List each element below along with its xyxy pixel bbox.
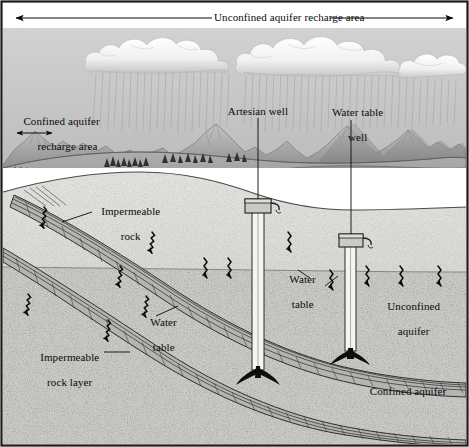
label-water-table-center: Water table	[272, 260, 322, 323]
label-impermeable-rock: Impermeable rock	[86, 192, 164, 255]
label-water-table-well: Water table well	[316, 93, 388, 156]
label-impermeable-rock-layer-line2: rock layer	[47, 376, 92, 388]
label-water-table-left-line1: Water	[150, 316, 177, 328]
label-impermeable-rock-line2: rock	[121, 230, 141, 242]
label-confined-recharge-area: Confined aquifer recharge area	[12, 102, 108, 165]
label-unconfined-aquifer-line1: Unconfined	[387, 300, 440, 312]
label-unconfined-aquifer: Unconfined aquifer	[372, 287, 444, 350]
label-water-table-left-line2: table	[153, 341, 175, 353]
label-water-table-center-line1: Water	[289, 273, 316, 285]
label-artesian-well: Artesian well	[215, 105, 301, 118]
label-impermeable-rock-layer: Impermeable rock layer	[22, 338, 106, 401]
label-water-table-well-line1: Water table	[332, 106, 383, 118]
label-impermeable-rock-layer-line1: Impermeable	[40, 351, 99, 363]
label-impermeable-rock-line1: Impermeable	[101, 205, 160, 217]
label-unconfined-aquifer-line2: aquifer	[398, 325, 430, 337]
label-confined-aquifer: Confined aquifer	[362, 385, 454, 398]
label-confined-recharge-line1: Confined aquifer	[23, 115, 99, 127]
label-confined-recharge-line2: recharge area	[23, 140, 97, 153]
label-water-table-well-line2: well	[348, 131, 367, 143]
label-water-table-center-line2: table	[292, 298, 314, 310]
label-unconfined-recharge-area: Unconfined aquifer recharge area	[214, 11, 332, 24]
aquifer-diagram: Unconfined aquifer recharge area Confine…	[0, 0, 469, 447]
label-water-table-left: Water table	[132, 303, 184, 366]
